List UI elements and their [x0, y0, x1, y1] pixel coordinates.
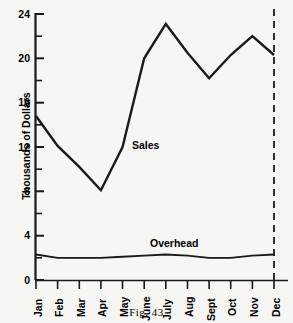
line-chart-plot	[0, 0, 293, 323]
figure-container: Thousands of Dollars 24 20 16 12 8 4 0 J…	[0, 0, 293, 323]
y-tick-label-4: 4	[8, 229, 30, 241]
y-tick-label-16: 16	[8, 96, 30, 108]
y-tick-label-24: 24	[8, 8, 30, 20]
y-axis-major-ticks	[36, 14, 44, 280]
figure-caption: Fig. 43	[0, 306, 293, 318]
x-axis-ticks	[36, 281, 274, 289]
y-tick-label-8: 8	[8, 185, 30, 197]
series-label-sales: Sales	[132, 139, 159, 151]
series-line-sales	[36, 24, 274, 190]
series-line-overhead	[36, 255, 274, 258]
y-tick-label-0: 0	[8, 274, 30, 286]
y-tick-label-12: 12	[8, 141, 30, 153]
y-tick-label-20: 20	[8, 52, 30, 64]
series-label-overhead: Overhead	[150, 237, 198, 249]
